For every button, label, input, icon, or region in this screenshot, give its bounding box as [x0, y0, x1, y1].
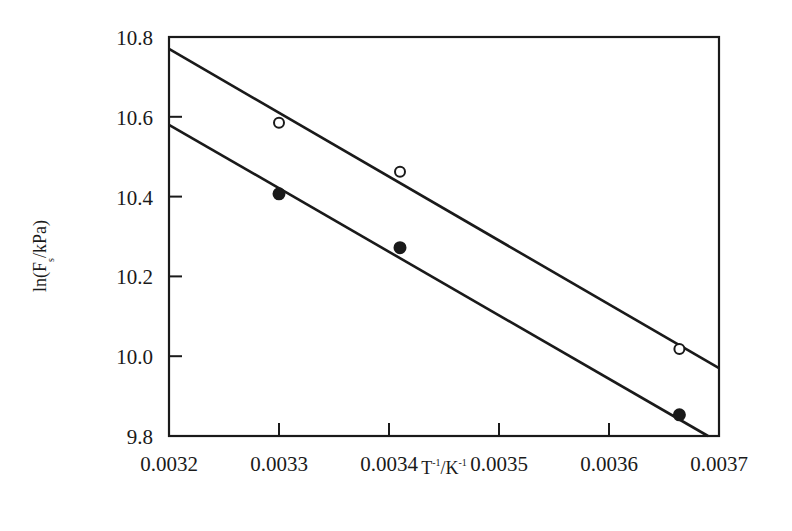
x-tick-label: 0.0035: [470, 452, 528, 476]
y-tick-label: 10.4: [116, 186, 153, 210]
y-tick-label: 10.0: [116, 345, 153, 369]
data-points: [274, 118, 685, 421]
fit-line: [169, 125, 708, 436]
filled-circle-point: [395, 242, 406, 253]
x-tick-label: 0.0036: [580, 452, 638, 476]
open-circle-point: [274, 118, 284, 128]
x-tick-label: 0.0037: [690, 452, 748, 476]
x-axis-label: T-1/K-1: [421, 457, 467, 478]
y-tick-label: 10.6: [116, 106, 153, 130]
open-circle-point: [674, 344, 684, 354]
x-tick-label: 0.0032: [140, 452, 198, 476]
x-tick-label: 0.0034: [360, 452, 418, 476]
y-tick-label: 10.2: [116, 265, 153, 289]
y-axis-ticks: 9.810.010.210.410.610.8: [116, 26, 182, 449]
y-tick-label: 9.8: [127, 425, 153, 449]
fit-line: [169, 49, 719, 368]
y-axis-label: ln(Fs/kPa): [30, 220, 56, 292]
y-tick-label: 10.8: [116, 26, 153, 50]
filled-circle-point: [274, 188, 285, 199]
chart: 9.810.010.210.410.610.8 0.00320.00330.00…: [0, 0, 792, 531]
fit-lines: [169, 49, 719, 436]
x-tick-label: 0.0033: [250, 452, 308, 476]
open-circle-point: [395, 167, 405, 177]
filled-circle-point: [674, 409, 685, 420]
